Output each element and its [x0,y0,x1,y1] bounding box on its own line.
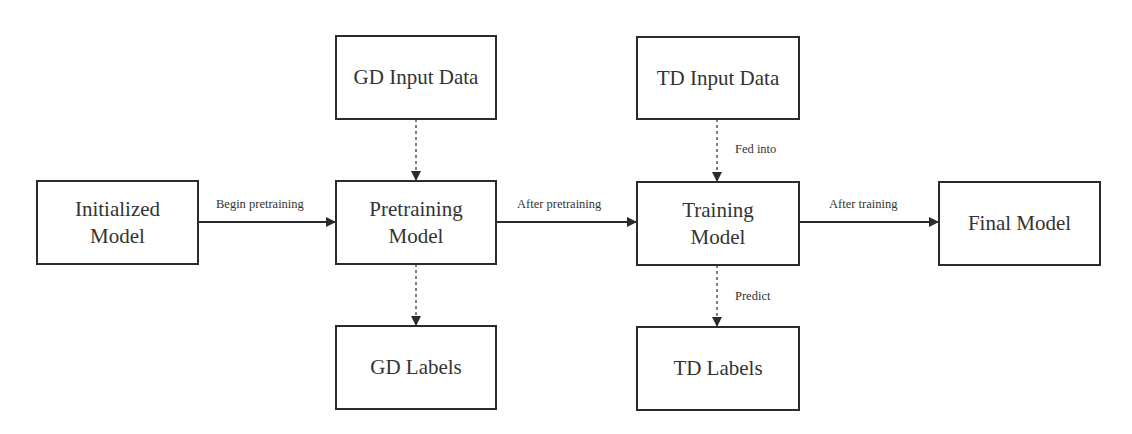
node-gd-input-data: GD Input Data [335,35,497,120]
node-label: GD Input Data [354,64,479,91]
node-label: TD Labels [673,355,762,382]
node-label: Initialized Model [75,196,160,250]
node-label: Pretraining Model [369,196,462,250]
node-initialized-model: Initialized Model [36,180,199,265]
node-pretraining-model: Pretraining Model [335,180,497,265]
edge-label-begin-pretraining: Begin pretraining [216,197,304,212]
node-label: TD Input Data [657,65,779,92]
node-label: Final Model [968,210,1071,237]
node-label: GD Labels [370,354,462,381]
edge-label-fed-into: Fed into [735,142,776,157]
node-final-model: Final Model [938,181,1101,266]
node-gd-labels: GD Labels [335,325,497,410]
edge-label-after-pretraining: After pretraining [517,197,601,212]
node-td-labels: TD Labels [636,326,800,411]
edge-label-predict: Predict [735,289,770,304]
node-label: Training Model [682,197,754,251]
node-td-input-data: TD Input Data [636,36,800,120]
node-training-model: Training Model [636,181,800,266]
edge-label-after-training: After training [829,197,897,212]
